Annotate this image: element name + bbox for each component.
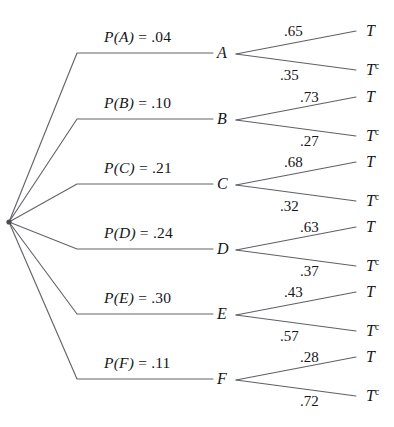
prob-E-top: .43 [284,285,303,300]
stage1-prefix-F: P(F) [104,354,134,371]
prob-C-bottom: .32 [280,199,299,214]
outcome-E-T-letter: T [366,283,375,300]
stage1-eq-A: = [134,28,151,45]
edge-root-to-C [9,184,213,222]
node-A: A [217,45,227,61]
outcome-C-Tc-letter: T [366,192,375,209]
outcome-C-T: T [366,154,375,170]
node-B: B [217,111,227,127]
outcome-A-Tc: Tc [366,62,379,78]
outcome-B-Tc-letter: T [366,127,375,144]
outcome-E-Tc: Tc [366,323,379,339]
outcome-F-Tc-letter: T [366,387,375,404]
stage1-prefix-E: P(E) [104,289,134,306]
edge-F-to-Tc [236,380,356,396]
stage1-prefix-C: P(C) [104,159,135,176]
prob-E-bottom: .57 [280,329,299,344]
stage1-eq-B: = [134,94,151,111]
outcome-B-Tc: Tc [366,128,379,144]
stage1-prefix-B: P(B) [104,94,134,111]
outcome-B-T: T [366,89,375,105]
prob-B-bottom: .27 [300,134,319,149]
outcome-F-T-letter: T [366,348,375,365]
outcome-F-T: T [366,349,375,365]
probability-tree-figure: P(A) = .04 P(B) = .10 P(C) = .21 P(D) = … [0,0,394,427]
prob-F-top: .28 [300,350,319,365]
prob-B-top: .73 [300,90,319,105]
stage1-label-C: P(C) = .21 [104,160,172,176]
stage1-label-E: P(E) = .30 [104,290,171,306]
outcome-F-Tc: Tc [366,388,379,404]
prob-D-top: .63 [300,220,319,235]
outcome-D-Tc-letter: T [366,257,375,274]
prob-D-bottom: .37 [300,264,319,279]
node-C: C [217,176,228,192]
stage1-eq-C: = [135,159,152,176]
root-node [6,219,11,224]
outcome-C-T-letter: T [366,153,375,170]
outcome-D-T-letter: T [366,218,375,235]
tree-edges [0,0,394,427]
prob-C-top: .68 [284,155,303,170]
outcome-E-Tc-letter: T [366,322,375,339]
stage1-label-B: P(B) = .10 [104,95,171,111]
stage1-value-F: .11 [151,354,170,371]
node-E: E [217,306,227,322]
prob-F-bottom: .72 [300,394,319,409]
node-F: F [217,371,227,387]
edge-F-to-T [236,357,356,380]
edge-B-to-T [236,97,356,120]
outcome-C-Tc-sup: c [375,192,379,202]
prob-A-top: .65 [284,24,303,39]
edge-B-to-Tc [236,120,356,136]
prob-A-bottom: .35 [280,68,299,83]
stage1-value-A: .04 [151,28,171,45]
edge-D-to-T [236,227,356,250]
outcome-F-Tc-sup: c [375,387,379,397]
outcome-A-T-letter: T [366,22,375,39]
stage1-prefix-A: P(A) [104,28,134,45]
outcome-C-Tc: Tc [366,193,379,209]
outcome-B-T-letter: T [366,88,375,105]
stage1-value-E: .30 [151,289,171,306]
outcome-D-Tc: Tc [366,258,379,274]
stage1-value-B: .10 [151,94,171,111]
stage1-prefix-D: P(D) [104,224,136,241]
edge-D-to-Tc [236,250,356,266]
stage1-label-D: P(D) = .24 [104,225,173,241]
stage1-label-F: P(F) = .11 [104,355,171,371]
stage1-eq-D: = [136,224,153,241]
outcome-E-Tc-sup: c [375,322,379,332]
outcome-A-Tc-sup: c [375,61,379,71]
node-D: D [217,241,229,257]
outcome-A-T: T [366,23,375,39]
stage1-eq-E: = [134,289,151,306]
outcome-D-T: T [366,219,375,235]
stage1-value-C: .21 [152,159,172,176]
outcome-B-Tc-sup: c [375,127,379,137]
outcome-E-T: T [366,284,375,300]
stage1-value-D: .24 [153,224,173,241]
outcome-D-Tc-sup: c [375,257,379,267]
stage1-label-A: P(A) = .04 [104,29,171,45]
outcome-A-Tc-letter: T [366,61,375,78]
stage1-eq-F: = [134,354,151,371]
edge-root-to-A [9,53,213,222]
